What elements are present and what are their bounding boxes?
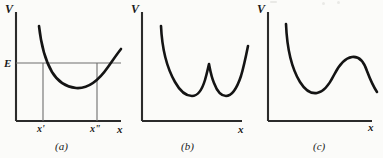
panel-caption-a: (a) xyxy=(55,141,68,152)
panel-a-plot xyxy=(0,0,128,158)
scan-speckle xyxy=(270,1,277,3)
x-axis-label: x xyxy=(117,124,123,135)
panel-a: V E x' x" x (a) xyxy=(0,0,128,158)
y-axis-label: V xyxy=(257,3,265,15)
x-axis-label: x xyxy=(368,122,374,133)
y-axis-label: V xyxy=(5,3,13,15)
scan-speckle xyxy=(322,2,325,5)
panel-b: V x (b) xyxy=(128,0,255,158)
panel-c: V x (c) xyxy=(255,0,383,158)
potential-curve-a xyxy=(39,26,121,88)
potential-energy-figure: V E x' x" x (a) V x (b) V x (c) xyxy=(0,0,383,158)
x-axis-label: x xyxy=(238,124,244,135)
panel-c-plot xyxy=(255,0,383,158)
scan-speckle xyxy=(337,1,340,4)
tick-label-x-double-prime: x" xyxy=(90,124,101,134)
potential-curve-b xyxy=(161,26,248,96)
panel-b-plot xyxy=(128,0,255,158)
panel-caption-b: (b) xyxy=(181,141,194,152)
y-axis-label: V xyxy=(131,3,139,15)
energy-level-label: E xyxy=(4,58,11,69)
panel-caption-c: (c) xyxy=(313,141,325,152)
tick-label-x-prime: x' xyxy=(37,124,45,134)
potential-curve-c xyxy=(286,24,377,93)
